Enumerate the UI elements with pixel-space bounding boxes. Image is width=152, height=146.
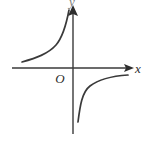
origin-label: O <box>55 71 65 86</box>
hyperbola-figure: x y O <box>0 0 152 146</box>
curve-upper-left-branch <box>22 10 69 62</box>
coordinate-plane-svg: x y O <box>0 0 152 146</box>
x-axis-label: x <box>134 61 141 76</box>
curve-lower-right-branch <box>78 75 128 122</box>
y-axis-label: y <box>67 0 75 9</box>
